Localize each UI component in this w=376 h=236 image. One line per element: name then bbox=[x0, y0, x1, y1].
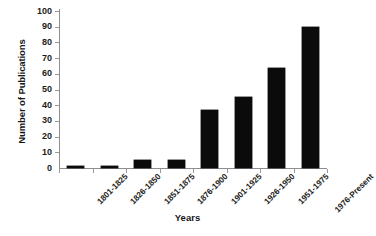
y-axis-tick-mark bbox=[55, 27, 59, 28]
x-axis-tick-mark bbox=[260, 169, 261, 173]
x-axis-tick-mark bbox=[294, 169, 295, 173]
x-axis-tick-label: 1801-1825 bbox=[95, 172, 129, 206]
y-axis-tick-label: 100 bbox=[28, 7, 52, 16]
y-axis-tick-label: 90 bbox=[28, 22, 52, 31]
y-axis-tick-mark bbox=[55, 58, 59, 59]
x-axis-title-text: Years bbox=[175, 212, 200, 223]
x-axis-tick-label: 1951-1975 bbox=[296, 172, 330, 206]
x-axis-tick-mark bbox=[227, 169, 228, 173]
y-axis-tick-label: 30 bbox=[28, 116, 52, 125]
x-axis-tick-mark bbox=[160, 169, 161, 173]
y-axis-tick-label: 60 bbox=[28, 69, 52, 78]
bar-1926-1950 bbox=[235, 97, 252, 168]
bar-1876-1900 bbox=[168, 160, 185, 168]
x-axis-tick-label: 1876-1900 bbox=[196, 172, 230, 206]
y-axis-tick-mark bbox=[55, 121, 59, 122]
x-axis-tick-label: 1826-1850 bbox=[129, 172, 163, 206]
y-axis-tick-mark bbox=[55, 137, 59, 138]
y-axis-tick-mark bbox=[55, 42, 59, 43]
x-axis-tick-mark bbox=[126, 169, 127, 173]
x-axis-tick-mark bbox=[327, 169, 328, 173]
bar-1851-1875 bbox=[134, 160, 151, 168]
bar-1951-1975 bbox=[268, 68, 285, 168]
y-axis-tick-label: 40 bbox=[28, 101, 52, 110]
x-axis-tick-label: 1926-1950 bbox=[263, 172, 297, 206]
x-axis-tick-mark bbox=[93, 169, 94, 173]
bar-1801-1825 bbox=[67, 166, 84, 168]
bar-1826-1850 bbox=[101, 166, 118, 168]
x-axis-tick-mark bbox=[59, 169, 60, 173]
bar-1976-Present bbox=[302, 27, 319, 168]
y-axis-tick-labels: 1009080706050403020100 bbox=[22, 0, 52, 236]
bar-1901-1925 bbox=[201, 110, 218, 168]
y-axis-line bbox=[59, 9, 60, 170]
y-axis-tick-mark bbox=[55, 90, 59, 91]
y-axis-tick-mark bbox=[55, 105, 59, 106]
x-axis-tick-label: 1901-1925 bbox=[229, 172, 263, 206]
y-axis-tick-label: 0 bbox=[28, 164, 52, 173]
y-axis-tick-label: 80 bbox=[28, 38, 52, 47]
plot-area bbox=[59, 11, 327, 168]
y-axis-tick-mark bbox=[55, 11, 59, 12]
x-axis-title: Years bbox=[0, 212, 335, 223]
x-axis-tick-label: 1851-1875 bbox=[162, 172, 196, 206]
y-axis-tick-label: 70 bbox=[28, 54, 52, 63]
y-axis-tick-label: 50 bbox=[28, 85, 52, 94]
y-axis-tick-label: 10 bbox=[28, 148, 52, 157]
y-axis-tick-label: 20 bbox=[28, 132, 52, 141]
y-axis-tick-mark bbox=[55, 152, 59, 153]
y-axis-tick-mark bbox=[55, 74, 59, 75]
x-axis-tick-mark bbox=[193, 169, 194, 173]
x-axis-tick-label: 1976-Present bbox=[333, 172, 375, 214]
